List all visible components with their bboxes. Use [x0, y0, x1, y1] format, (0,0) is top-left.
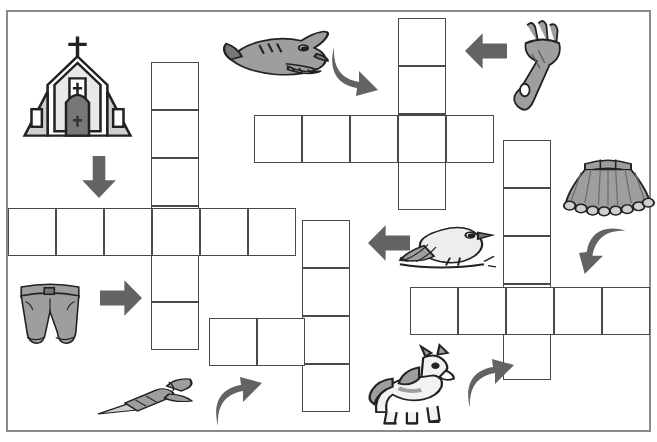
- crossword-cell[interactable]: [248, 208, 296, 256]
- skirt-icon: [560, 148, 656, 220]
- crossword-cell[interactable]: [302, 115, 350, 163]
- crossword-cell[interactable]: [410, 287, 458, 335]
- crossword-cell[interactable]: [151, 302, 199, 350]
- arrow-horse-up: [466, 348, 516, 420]
- crossword-cell[interactable]: [503, 188, 551, 236]
- crossword-cell[interactable]: [506, 287, 554, 335]
- crossword-cell[interactable]: [151, 158, 199, 206]
- crossword-cell[interactable]: [446, 115, 494, 163]
- shorts-icon: [14, 277, 86, 349]
- crossword-cell[interactable]: [151, 254, 199, 302]
- arrow-shorts-right: [91, 277, 151, 319]
- crossword-cell[interactable]: [503, 140, 551, 188]
- crossword-cell[interactable]: [398, 66, 446, 114]
- crossword-cell[interactable]: [302, 220, 350, 268]
- arrow-shark-down: [330, 32, 380, 110]
- crossword-cell[interactable]: [254, 115, 302, 163]
- crossword-cell[interactable]: [151, 62, 199, 110]
- crossword-cell[interactable]: [602, 287, 650, 335]
- arrow-church-down: [78, 145, 120, 209]
- crossword-cell[interactable]: [257, 318, 305, 366]
- arrow-skirt-left: [570, 228, 636, 276]
- crossword-cell[interactable]: [398, 162, 446, 210]
- crossword-cell[interactable]: [503, 236, 551, 284]
- fork-icon: [500, 18, 580, 108]
- crossword-cell[interactable]: [56, 208, 104, 256]
- crossword-cell[interactable]: [151, 110, 199, 158]
- bird-icon: [398, 218, 498, 284]
- crossword-cell[interactable]: [209, 318, 257, 366]
- crossword-cell[interactable]: [8, 208, 56, 256]
- crossword-cell[interactable]: [152, 208, 200, 256]
- crossword-cell[interactable]: [302, 364, 350, 412]
- crossword-cell[interactable]: [350, 115, 398, 163]
- church-icon: [20, 30, 135, 140]
- horse-icon: [362, 345, 464, 425]
- crossword-cell[interactable]: [398, 18, 446, 66]
- crossword-cell[interactable]: [458, 287, 506, 335]
- crossword-cell[interactable]: [104, 208, 152, 256]
- crossword-cell[interactable]: [398, 115, 446, 163]
- shark-icon: [222, 22, 332, 94]
- arrow-dart-up: [214, 368, 264, 436]
- crossword-cell[interactable]: [302, 268, 350, 316]
- crossword-page: [0, 0, 657, 442]
- crossword-cell[interactable]: [302, 316, 350, 364]
- dart-icon: [96, 372, 200, 422]
- crossword-cell[interactable]: [554, 287, 602, 335]
- crossword-cell[interactable]: [200, 208, 248, 256]
